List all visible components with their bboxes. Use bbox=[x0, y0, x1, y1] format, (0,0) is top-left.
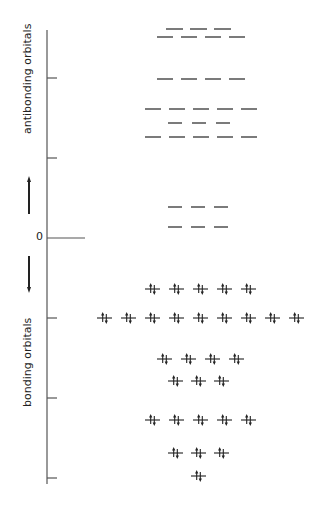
spin-up-arrowhead-icon bbox=[149, 283, 152, 287]
spin-down-arrowhead-icon bbox=[273, 321, 276, 325]
bonding-orbital-filled bbox=[97, 312, 112, 324]
spin-up-arrowhead-icon bbox=[293, 312, 296, 316]
bonding-orbital-filled bbox=[214, 375, 229, 387]
bonding-label: bonding orbitals bbox=[21, 318, 34, 407]
spin-down-arrowhead-icon bbox=[237, 362, 240, 366]
spin-up-arrowhead-icon bbox=[218, 447, 221, 451]
antibonding-label: antibonding orbitals bbox=[21, 24, 34, 134]
bonding-orbital-filled bbox=[265, 312, 280, 324]
spin-down-arrowhead-icon bbox=[222, 384, 225, 388]
bonding-orbital-filled bbox=[169, 414, 184, 426]
bonding-orbital-filled bbox=[214, 447, 229, 459]
bonding-levels bbox=[97, 283, 304, 482]
spin-up-arrowhead-icon bbox=[172, 375, 175, 379]
spin-down-arrowhead-icon bbox=[165, 362, 168, 366]
spin-down-arrowhead-icon bbox=[199, 384, 202, 388]
spin-up-arrowhead-icon bbox=[173, 414, 176, 418]
bonding-orbital-filled bbox=[168, 447, 183, 459]
spin-up-arrowhead-icon bbox=[197, 283, 200, 287]
antibonding-levels bbox=[145, 29, 257, 227]
spin-up-arrowhead-icon bbox=[197, 312, 200, 316]
spin-down-arrowhead-icon bbox=[129, 321, 132, 325]
spin-up-arrowhead-icon bbox=[221, 283, 224, 287]
arrow-up-head-icon bbox=[27, 176, 31, 182]
zero-label: 0 bbox=[36, 230, 43, 243]
spin-down-arrowhead-icon bbox=[153, 292, 156, 296]
spin-down-arrowhead-icon bbox=[177, 321, 180, 325]
bonding-orbital-filled bbox=[217, 312, 232, 324]
arrow-down-head-icon bbox=[27, 287, 31, 293]
spin-up-arrowhead-icon bbox=[125, 312, 128, 316]
spin-down-arrowhead-icon bbox=[189, 362, 192, 366]
mo-diagram bbox=[0, 0, 310, 506]
bonding-orbital-filled bbox=[191, 375, 206, 387]
spin-up-arrowhead-icon bbox=[269, 312, 272, 316]
spin-down-arrowhead-icon bbox=[249, 423, 252, 427]
spin-down-arrowhead-icon bbox=[177, 292, 180, 296]
bonding-orbital-filled bbox=[205, 353, 220, 365]
bonding-orbital-filled bbox=[241, 414, 256, 426]
spin-down-arrowhead-icon bbox=[177, 423, 180, 427]
spin-up-arrowhead-icon bbox=[185, 353, 188, 357]
spin-up-arrowhead-icon bbox=[173, 312, 176, 316]
spin-down-arrowhead-icon bbox=[201, 423, 204, 427]
bonding-orbital-filled bbox=[181, 353, 196, 365]
spin-down-arrowhead-icon bbox=[225, 423, 228, 427]
spin-up-arrowhead-icon bbox=[221, 312, 224, 316]
spin-up-arrowhead-icon bbox=[233, 353, 236, 357]
bonding-orbital-filled bbox=[229, 353, 244, 365]
spin-up-arrowhead-icon bbox=[101, 312, 104, 316]
bonding-orbital-filled bbox=[217, 414, 232, 426]
bonding-orbital-filled bbox=[241, 312, 256, 324]
spin-down-arrowhead-icon bbox=[176, 384, 179, 388]
spin-down-arrowhead-icon bbox=[225, 292, 228, 296]
bonding-orbital-filled bbox=[145, 312, 160, 324]
bonding-orbital-filled bbox=[145, 414, 160, 426]
spin-up-arrowhead-icon bbox=[218, 375, 221, 379]
spin-down-arrowhead-icon bbox=[297, 321, 300, 325]
spin-down-arrowhead-icon bbox=[222, 456, 225, 460]
spin-down-arrowhead-icon bbox=[213, 362, 216, 366]
spin-down-arrowhead-icon bbox=[153, 321, 156, 325]
spin-up-arrowhead-icon bbox=[245, 312, 248, 316]
spin-up-arrowhead-icon bbox=[245, 283, 248, 287]
bonding-orbital-filled bbox=[191, 447, 206, 459]
spin-up-arrowhead-icon bbox=[161, 353, 164, 357]
bonding-orbital-filled bbox=[289, 312, 304, 324]
spin-down-arrowhead-icon bbox=[153, 423, 156, 427]
bonding-orbital-filled bbox=[191, 470, 206, 482]
spin-down-arrowhead-icon bbox=[201, 292, 204, 296]
spin-up-arrowhead-icon bbox=[195, 470, 198, 474]
bonding-orbital-filled bbox=[241, 283, 256, 295]
bonding-orbital-filled bbox=[193, 283, 208, 295]
spin-up-arrowhead-icon bbox=[197, 414, 200, 418]
bonding-orbital-filled bbox=[121, 312, 136, 324]
bonding-orbital-filled bbox=[168, 375, 183, 387]
spin-down-arrowhead-icon bbox=[201, 321, 204, 325]
bonding-orbital-filled bbox=[193, 414, 208, 426]
spin-up-arrowhead-icon bbox=[149, 414, 152, 418]
spin-down-arrowhead-icon bbox=[249, 321, 252, 325]
spin-up-arrowhead-icon bbox=[195, 375, 198, 379]
spin-down-arrowhead-icon bbox=[249, 292, 252, 296]
spin-down-arrowhead-icon bbox=[176, 456, 179, 460]
bonding-orbital-filled bbox=[169, 283, 184, 295]
bonding-orbital-filled bbox=[169, 312, 184, 324]
spin-up-arrowhead-icon bbox=[209, 353, 212, 357]
spin-up-arrowhead-icon bbox=[195, 447, 198, 451]
spin-down-arrowhead-icon bbox=[199, 456, 202, 460]
spin-down-arrowhead-icon bbox=[105, 321, 108, 325]
spin-down-arrowhead-icon bbox=[199, 479, 202, 483]
direction-arrows bbox=[27, 176, 31, 293]
spin-up-arrowhead-icon bbox=[221, 414, 224, 418]
spin-up-arrowhead-icon bbox=[149, 312, 152, 316]
bonding-orbital-filled bbox=[193, 312, 208, 324]
spin-down-arrowhead-icon bbox=[225, 321, 228, 325]
spin-up-arrowhead-icon bbox=[173, 283, 176, 287]
spin-up-arrowhead-icon bbox=[172, 447, 175, 451]
bonding-orbital-filled bbox=[157, 353, 172, 365]
energy-axis bbox=[47, 30, 85, 484]
bonding-orbital-filled bbox=[145, 283, 160, 295]
spin-up-arrowhead-icon bbox=[245, 414, 248, 418]
bonding-orbital-filled bbox=[217, 283, 232, 295]
